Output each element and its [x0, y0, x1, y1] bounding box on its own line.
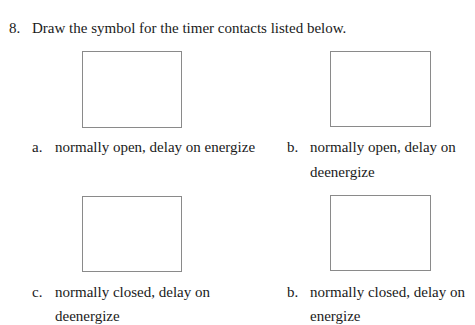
- item-label-d-line1: normally closed, delay on: [310, 285, 465, 300]
- item-label-b-line1: normally open, delay on: [310, 140, 456, 155]
- item-letter-c: c.: [32, 285, 42, 300]
- item-letter-d: b.: [287, 285, 298, 300]
- question-text: Draw the symbol for the timer contacts l…: [32, 21, 346, 36]
- item-label-a: normally open, delay on energize: [55, 140, 255, 155]
- answer-box-a[interactable]: [82, 51, 182, 128]
- item-label-d-line2: energize: [310, 309, 361, 324]
- item-letter-a: a.: [32, 140, 42, 155]
- item-label-b-line2: deenergize: [310, 165, 375, 180]
- item-label-c-line1: normally closed, delay on: [55, 285, 210, 300]
- question-number: 8.: [9, 21, 20, 36]
- item-letter-b: b.: [287, 140, 298, 155]
- answer-box-d[interactable]: [330, 195, 431, 271]
- answer-box-c[interactable]: [82, 196, 182, 272]
- answer-box-b[interactable]: [330, 51, 431, 127]
- item-label-c-line2: deenergize: [55, 309, 120, 324]
